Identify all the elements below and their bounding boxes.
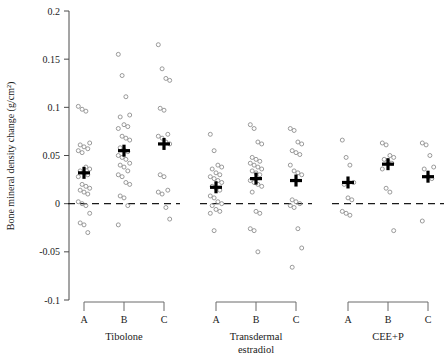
group-label: Transdermal [230, 331, 283, 342]
data-point [432, 165, 436, 169]
data-point [292, 206, 296, 210]
data-point [220, 180, 224, 184]
data-point [248, 123, 252, 127]
subgroup-label-a: A [212, 314, 220, 325]
data-point [388, 154, 392, 158]
data-point [118, 115, 122, 119]
data-point [220, 202, 224, 206]
data-point [168, 217, 172, 221]
data-point [84, 109, 88, 113]
data-point [158, 106, 162, 110]
data-point [296, 140, 300, 144]
group-label: Tibolone [105, 331, 143, 342]
data-point [128, 113, 132, 117]
data-point [120, 74, 124, 78]
y-tick-label: 0.15 [43, 54, 61, 65]
data-point [166, 188, 170, 192]
subgroup-labels: ABCABCABC [80, 314, 431, 325]
data-point [292, 169, 296, 173]
data-point [252, 229, 256, 233]
data-point [82, 190, 86, 194]
data-point [120, 134, 124, 138]
data-point [260, 167, 264, 171]
data-point [212, 149, 216, 153]
data-point [252, 163, 256, 167]
data-point [212, 196, 216, 200]
data-point [300, 246, 304, 250]
subgroup-label-a: A [80, 314, 88, 325]
data-point [340, 138, 344, 142]
data-point [300, 142, 304, 146]
group-label-line2: estradiol [238, 344, 274, 355]
data-point [212, 229, 216, 233]
data-point [162, 175, 166, 179]
group-label: CEE+P [372, 331, 404, 342]
data-point [116, 154, 120, 158]
data-point [116, 52, 120, 56]
data-point [156, 190, 160, 194]
y-axis [64, 11, 69, 300]
data-point [164, 76, 168, 80]
data-point [382, 157, 386, 161]
y-tick-label: -0.05 [39, 246, 60, 257]
data-point [208, 194, 212, 198]
y-tick-label: -0.1 [44, 295, 60, 306]
data-point [260, 184, 264, 188]
data-point [160, 67, 164, 71]
data-point [164, 206, 168, 210]
data-point [300, 173, 304, 177]
data-point [156, 43, 160, 47]
data-point [214, 171, 218, 175]
data-point [290, 149, 294, 153]
data-point [124, 180, 128, 184]
data-point [128, 138, 132, 142]
data-point [76, 175, 80, 179]
data-point [384, 143, 388, 147]
data-point [78, 221, 82, 225]
data-point [258, 211, 262, 215]
data-point [88, 141, 92, 145]
y-tick-label: 0 [55, 198, 60, 209]
data-point [348, 163, 352, 167]
data-point [346, 196, 350, 200]
data-point [214, 207, 218, 211]
y-axis-title: Bone mineral density change (g/cm²) [5, 82, 17, 231]
data-point [380, 141, 384, 145]
subgroup-label-b: B [253, 314, 260, 325]
data-point [116, 127, 120, 131]
data-point [88, 167, 92, 171]
data-point [126, 125, 130, 129]
data-point [160, 192, 164, 196]
data-point [296, 227, 300, 231]
data-point [88, 211, 92, 215]
data-point [158, 173, 162, 177]
data-point [248, 161, 252, 165]
group-bracket [216, 302, 296, 311]
subgroup-label-c: C [161, 314, 168, 325]
data-point [128, 182, 132, 186]
data-point [350, 198, 354, 202]
subgroup-label-c: C [293, 314, 300, 325]
data-point [82, 145, 86, 149]
data-point [116, 223, 120, 227]
data-point [254, 157, 258, 161]
data-point [82, 223, 86, 227]
data-point [380, 167, 384, 171]
data-point [80, 151, 84, 155]
data-point [116, 173, 120, 177]
data-point [122, 165, 126, 169]
data-point [126, 169, 130, 173]
data-point [122, 196, 126, 200]
data-point [220, 165, 224, 169]
data-point [420, 219, 424, 223]
group-labels: TiboloneTransdermalestradiolCEE+P [105, 331, 404, 355]
scatter-plot-svg: 0.20.150.10.050-0.05-0.1 ABCABCABC Tibol… [0, 0, 448, 359]
data-point [252, 127, 256, 131]
data-point [256, 140, 260, 144]
data-point [88, 186, 92, 190]
data-point [124, 95, 128, 99]
mean-marker [158, 138, 170, 150]
y-tick-label: 0.05 [43, 150, 61, 161]
data-point [86, 192, 90, 196]
data-point [208, 211, 212, 215]
